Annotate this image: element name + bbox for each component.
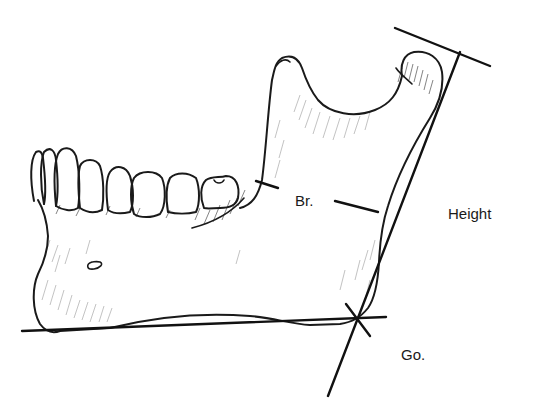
bone-shading bbox=[42, 62, 433, 322]
tooth-molar-3-cusp bbox=[214, 180, 224, 183]
teeth bbox=[31, 148, 238, 217]
ramus-tangent-line bbox=[328, 52, 460, 396]
condyle-tangent-line bbox=[395, 28, 490, 66]
mandible-diagram: Br. Height Go. bbox=[0, 0, 534, 414]
tooth-premolar-2 bbox=[107, 167, 133, 213]
label-breadth: Br. bbox=[295, 192, 313, 209]
breadth-posterior-tick bbox=[335, 201, 378, 212]
tooth-molar-1 bbox=[131, 172, 165, 217]
mental-foramen bbox=[88, 262, 102, 270]
tooth-molar-3 bbox=[201, 176, 238, 208]
tooth-premolar-1 bbox=[79, 160, 104, 212]
label-height: Height bbox=[448, 205, 491, 222]
tooth-molar-2 bbox=[167, 174, 199, 214]
label-gonion: Go. bbox=[401, 346, 425, 363]
